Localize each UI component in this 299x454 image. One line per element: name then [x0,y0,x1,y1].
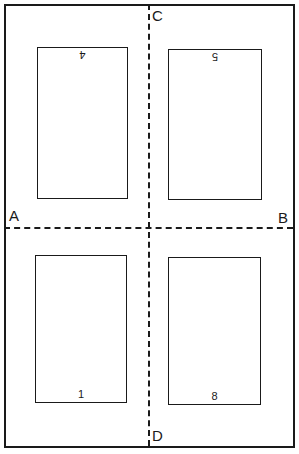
fold-label-a: A [9,208,19,223]
page-number: 1 [36,388,126,400]
page-number: 8 [169,390,260,402]
fold-line-horizontal [4,227,293,229]
fold-label-c: C [152,8,163,23]
fold-line-vertical [148,4,150,446]
fold-label-b: B [278,210,288,225]
page-panel-bottom-right: 8 [168,257,261,405]
fold-label-d: D [152,428,163,443]
page-number: 5 [169,51,261,63]
page-panel-top-right: 5 [168,49,262,200]
page-panel-top-left: 4 [37,47,128,199]
page-number: 4 [38,49,127,61]
page-panel-bottom-left: 1 [35,255,127,403]
